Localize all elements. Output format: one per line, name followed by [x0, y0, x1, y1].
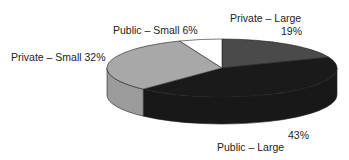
label-public-large-name: Public – Large [217, 141, 284, 153]
label-public-large-pct: 43% [288, 129, 309, 141]
label-private-large-name: Private – Large [230, 12, 301, 24]
label-public-small: Public – Small 6% [113, 24, 198, 36]
label-private-large-pct: 19% [281, 25, 302, 37]
label-private-small: Private – Small 32% [11, 51, 106, 63]
